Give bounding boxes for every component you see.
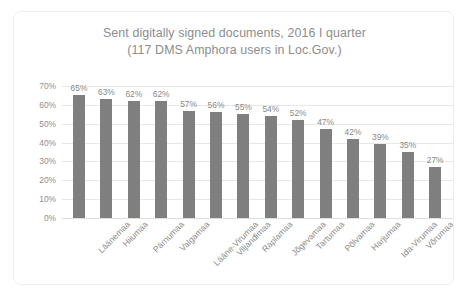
bar-value-label: 47% [311, 118, 341, 126]
gridline-20 [62, 180, 454, 181]
bar-value-label: 57% [174, 100, 204, 108]
bar-value-label: 65% [64, 84, 94, 92]
gridline-30 [62, 161, 454, 162]
bar-value-label: 42% [338, 128, 368, 136]
bar[interactable] [347, 139, 359, 218]
y-tick-label: 0% [14, 214, 56, 222]
bar-value-label: 56% [201, 101, 231, 109]
bar-value-label: 39% [365, 133, 395, 141]
gridline-50 [62, 124, 454, 125]
chart-card: Sent digitally signed documents, 2016 I … [13, 11, 454, 285]
bar-value-label: 55% [228, 103, 258, 111]
bar-value-label: 52% [283, 109, 313, 117]
bar[interactable] [320, 129, 332, 218]
x-axis-labels: LäänemaaHiiumaaPärnumaaValgamaaLääne-Vir… [62, 220, 454, 285]
y-tick-label: 10% [14, 195, 56, 203]
bar[interactable] [210, 112, 222, 218]
y-axis-labels: 70%60%50%40%30%20%10%0% [14, 86, 58, 218]
bar[interactable] [100, 99, 112, 218]
bar-value-label: 63% [91, 88, 121, 96]
y-tick-label: 60% [14, 101, 56, 109]
chart-title: Sent digitally signed documents, 2016 I … [14, 25, 454, 58]
y-tick-label: 70% [14, 82, 56, 90]
y-tick-label: 30% [14, 157, 56, 165]
bar-value-label: 35% [393, 141, 423, 149]
y-tick-label: 40% [14, 139, 56, 147]
bar[interactable] [292, 120, 304, 218]
gridline-10 [62, 199, 454, 200]
bar-value-label: 62% [146, 90, 176, 98]
bar[interactable] [128, 101, 140, 218]
y-tick-label: 20% [14, 176, 56, 184]
bar[interactable] [73, 95, 85, 218]
chart-title-line-2: (117 DMS Amphora users in Loc.Gov.) [14, 42, 454, 59]
bar[interactable] [237, 114, 249, 218]
bar[interactable] [374, 144, 386, 218]
bar-value-label: 27% [420, 156, 450, 164]
bar-value-label: 54% [256, 105, 286, 113]
chart-title-line-1: Sent digitally signed documents, 2016 I … [14, 25, 454, 42]
bar-value-label: 62% [119, 90, 149, 98]
gridline-70 [62, 86, 454, 87]
bar[interactable] [265, 116, 277, 218]
bar[interactable] [429, 167, 441, 218]
y-tick-label: 50% [14, 120, 56, 128]
plot-area: 65%63%62%62%57%56%55%54%52%47%42%39%35%2… [62, 86, 454, 218]
bar[interactable] [155, 101, 167, 218]
bar[interactable] [183, 111, 195, 218]
bar[interactable] [402, 152, 414, 218]
